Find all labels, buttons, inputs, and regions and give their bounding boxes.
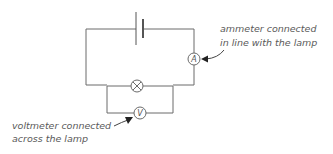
voltmeter-annotation: voltmeter connected across the lamp <box>12 117 133 144</box>
ammeter-label-line-2: in line with the lamp <box>220 37 317 48</box>
voltmeter-label-line-2: across the lamp <box>12 133 88 144</box>
ammeter-letter: A <box>190 55 196 64</box>
ammeter-arrow <box>206 50 224 59</box>
voltmeter-label-line-1: voltmeter connected <box>12 120 112 131</box>
ammeter-symbol: A <box>188 53 200 65</box>
circuit-diagram: A V ammeter connected in line with the l… <box>0 0 333 154</box>
voltmeter-arrow <box>114 120 128 126</box>
ammeter-arrowhead-icon <box>201 56 208 63</box>
outer-loop-wires <box>86 29 194 86</box>
ammeter-annotation: ammeter connected in line with the lamp <box>201 23 317 63</box>
voltmeter-letter: V <box>137 109 143 118</box>
lamp-symbol <box>131 80 143 92</box>
battery-symbol <box>136 12 143 45</box>
ammeter-label-line-1: ammeter connected <box>220 23 317 34</box>
voltmeter-symbol: V <box>134 107 146 119</box>
